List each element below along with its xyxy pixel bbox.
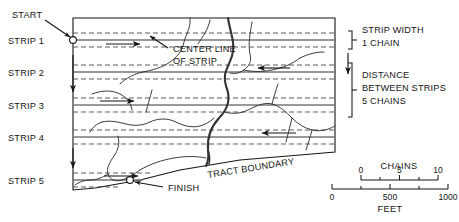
- label-strip-5: STRIP 5: [8, 176, 44, 186]
- strip-band-3: [73, 98, 335, 112]
- start-marker: [70, 37, 77, 44]
- scale-tick-chains-0: 0: [359, 165, 364, 175]
- scale-bar-feet: [332, 184, 448, 189]
- label-start: START: [12, 10, 42, 20]
- strip-width-bracket: [348, 31, 352, 49]
- center-line-leader: [150, 36, 168, 48]
- label-strip-width-2: 1 CHAIN: [362, 38, 400, 48]
- scale-tick-chains-5: 5: [397, 165, 402, 175]
- label-center-line-2: OF STRIP: [173, 56, 217, 66]
- diagram-canvas: START STRIP 1 STRIP 2 STRIP 3 STRIP 4 ST…: [0, 0, 459, 222]
- scale-tick-feet-500: 500: [383, 192, 398, 202]
- label-distance-1: DISTANCE: [362, 70, 409, 80]
- label-strip-4: STRIP 4: [8, 133, 44, 143]
- scale-caption-feet: FEET: [377, 204, 402, 214]
- scale-tick-feet-1000: 1000: [438, 192, 457, 202]
- scale-bar: [332, 175, 448, 189]
- strip-band-2: [73, 65, 335, 79]
- annotation-brackets: [348, 31, 357, 117]
- label-strip-2: STRIP 2: [8, 68, 44, 78]
- strip-band-4: [73, 130, 335, 144]
- label-strip-width-1: STRIP WIDTH: [362, 25, 424, 35]
- distance-bracket: [348, 63, 352, 117]
- finish-marker: [127, 177, 134, 184]
- label-distance-3: 5 CHAINS: [362, 96, 406, 106]
- label-finish: FINISH: [168, 183, 199, 193]
- label-strip-3: STRIP 3: [8, 101, 44, 111]
- scale-tick-chains-10: 10: [433, 165, 443, 175]
- finish-leader: [135, 182, 163, 187]
- label-strip-1: STRIP 1: [8, 36, 44, 46]
- scale-tick-feet-0: 0: [330, 192, 335, 202]
- scale-bar-chains: [361, 175, 438, 180]
- leader-lines: [45, 20, 168, 187]
- survey-markers: [70, 37, 134, 184]
- label-tract-boundary: TRACT BOUNDARY: [207, 156, 295, 180]
- label-distance-2: BETWEEN STRIPS: [362, 83, 446, 93]
- start-leader: [45, 20, 70, 37]
- strip-cruise-diagram: START STRIP 1 STRIP 2 STRIP 3 STRIP 4 ST…: [0, 0, 459, 222]
- label-center-line-1: CENTER LINE: [173, 44, 236, 54]
